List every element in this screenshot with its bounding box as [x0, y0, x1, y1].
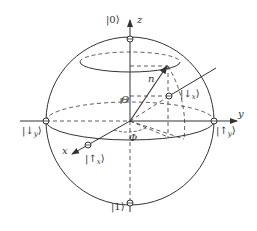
label-y-axis: y: [237, 108, 244, 119]
label-ket0: |0⟩: [106, 14, 120, 26]
label-theta: Θ: [121, 94, 129, 105]
meridian-arc: [168, 66, 185, 139]
x-axis-back-dashed: [130, 96, 169, 121]
label-ket1: |1⟩: [111, 201, 125, 213]
label-down-y: |↓y⟩: [22, 125, 42, 138]
label-z-axis: z: [136, 14, 143, 25]
label-x-axis: x: [62, 145, 68, 156]
bloch-sphere-diagram: |0⟩ z y x n Θ Φ |1⟩ |↓y⟩ |↑y⟩ |↑x⟩ |↓x⟩: [0, 0, 257, 231]
label-phi: Φ: [129, 132, 137, 143]
label-down-x: |↓x⟩: [180, 88, 200, 101]
label-up-x: |↑x⟩: [85, 153, 105, 166]
label-up-y: |↑y⟩: [216, 125, 236, 138]
label-vector-n: n: [148, 73, 154, 84]
proj-equator-2: [130, 121, 184, 139]
x-axis: [72, 121, 130, 154]
